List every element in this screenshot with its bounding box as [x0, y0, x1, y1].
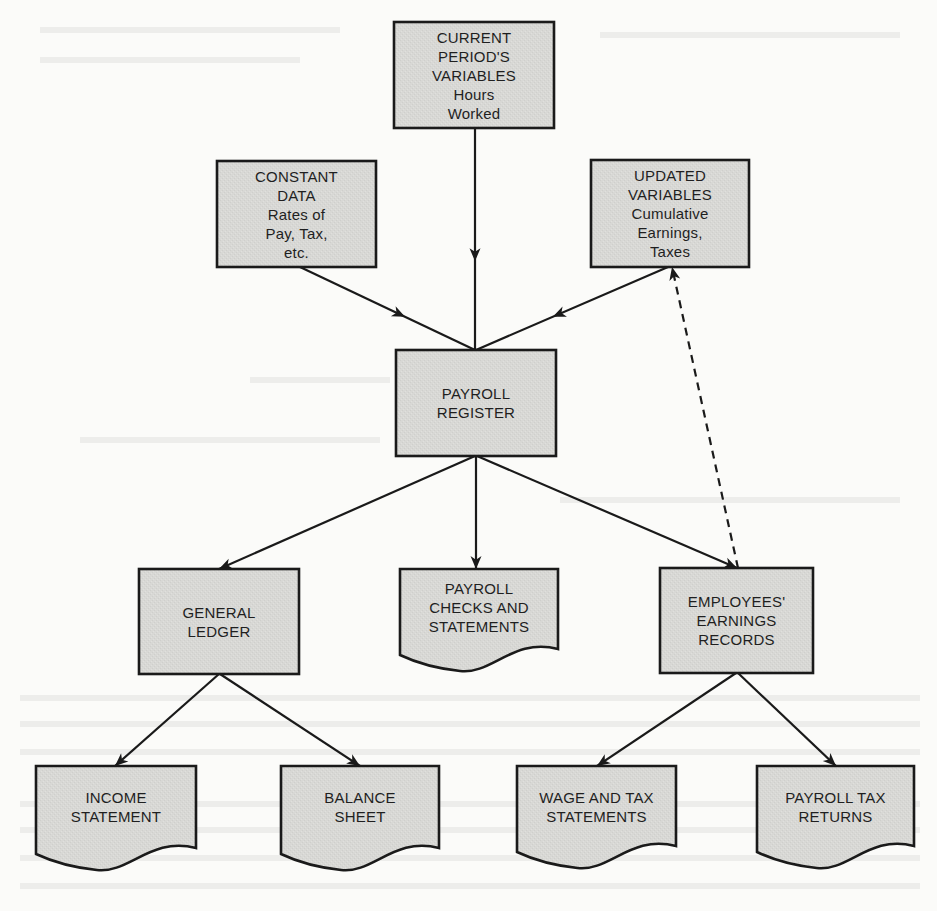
edge-payroll-register-to-payroll-checks [471, 456, 482, 569]
payroll-flowchart [0, 0, 937, 911]
process-box [591, 160, 749, 267]
node-wage-tax-statements [517, 766, 676, 868]
document-shape [517, 766, 676, 868]
node-updated-vars [591, 160, 749, 267]
document-shape [36, 766, 196, 870]
process-box [394, 22, 554, 128]
process-box [660, 568, 813, 673]
edge-updated-vars-to-payroll-register [476, 267, 668, 350]
node-payroll-tax-returns [757, 766, 914, 868]
node-general-ledger [139, 569, 299, 674]
edge-current-vars-to-payroll-register [470, 128, 481, 350]
arrowhead-icon [597, 754, 611, 766]
edge-earnings-records-to-updated-vars [669, 267, 738, 568]
document-shape [400, 569, 558, 671]
edge-constant-data-to-payroll-register [300, 267, 475, 350]
edge-payroll-register-to-general-ledger [219, 456, 475, 569]
arrowhead-icon [346, 754, 360, 766]
node-balance-sheet [281, 766, 439, 870]
node-income-statement [36, 766, 196, 870]
process-box [139, 569, 299, 674]
node-earnings-records [660, 568, 813, 673]
process-box [396, 350, 556, 456]
edge-payroll-register-to-earnings-records [477, 456, 737, 568]
document-shape [757, 766, 914, 868]
document-shape [281, 766, 439, 870]
node-current-vars [394, 22, 554, 128]
node-payroll-register [396, 350, 556, 456]
process-box [217, 161, 376, 267]
node-payroll-checks [400, 569, 558, 671]
node-constant-data [217, 161, 376, 267]
